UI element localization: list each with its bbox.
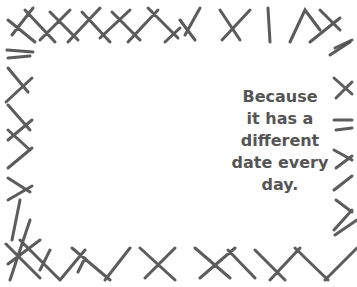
caption-line: day. [222, 174, 338, 196]
caption-line: different [222, 130, 338, 152]
caption-line: Because [222, 86, 338, 108]
caption-line: it has a [222, 108, 338, 130]
caption-text: Because it has a different date every da… [222, 86, 338, 196]
bottom-border [6, 220, 357, 280]
left-border [6, 56, 32, 240]
caption-line: date every [222, 152, 338, 174]
top-border [7, 8, 350, 55]
